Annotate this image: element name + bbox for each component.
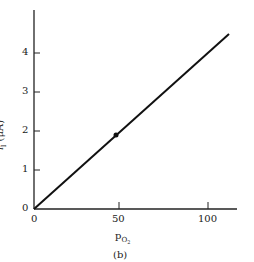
y-tick-label-4: 4 — [22, 46, 28, 57]
data-point-marker — [114, 133, 119, 138]
x-tick-label-0: 0 — [31, 213, 37, 224]
x-ticks — [119, 202, 208, 209]
x-tick-label-100: 100 — [198, 213, 217, 224]
y-tick-label-2: 2 — [22, 124, 28, 135]
y-ticks — [34, 53, 40, 170]
x-tick-label-50: 50 — [112, 213, 125, 224]
y-tick-label-0: 0 — [22, 202, 28, 213]
y-tick-label-3: 3 — [22, 85, 28, 96]
y-axis-label: il (μA) — [0, 120, 8, 150]
x-axis-label: pO2 — [115, 230, 130, 245]
data-line — [34, 34, 229, 209]
panel-label: (b) — [113, 249, 127, 260]
y-tick-label-1: 1 — [22, 163, 28, 174]
